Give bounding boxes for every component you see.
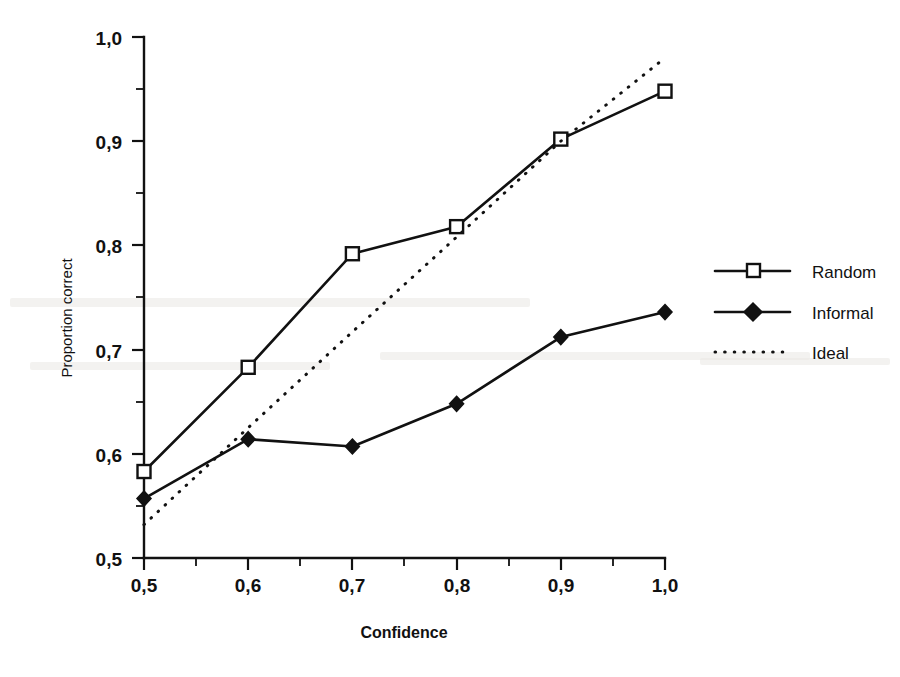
data-point-filled-diamond [658, 305, 672, 320]
legend-item-informal[interactable]: Informal [715, 303, 873, 323]
x-tick-label: 0,9 [548, 575, 574, 596]
series-random [138, 85, 672, 478]
legend: Random Informal Ideal [715, 263, 876, 363]
y-tick-labels: 1,0 0,9 0,8 0,7 0,6 0,5 [96, 28, 123, 570]
series-line-random [144, 91, 665, 471]
chart-svg: 1,0 0,9 0,8 0,7 0,6 0,5 0,5 0,6 0,7 0,8 … [0, 0, 900, 677]
x-tick-labels: 0,5 0,6 0,7 0,8 0,9 1,0 [131, 575, 678, 596]
y-tick-label: 1,0 [96, 28, 122, 49]
data-point-filled-diamond [137, 491, 151, 506]
y-tick-label: 0,7 [96, 341, 122, 362]
x-tick-label: 0,7 [339, 575, 365, 596]
data-point-filled-diamond [345, 439, 359, 454]
legend-item-ideal[interactable]: Ideal [715, 344, 849, 363]
x-tick-label: 0,5 [131, 575, 158, 596]
data-point-open-square [659, 85, 672, 98]
data-point-filled-diamond [450, 396, 464, 411]
figure-container: 1,0 0,9 0,8 0,7 0,6 0,5 0,5 0,6 0,7 0,8 … [0, 0, 900, 677]
x-tick-label: 0,6 [235, 575, 261, 596]
legend-marker-filled-diamond [744, 303, 762, 321]
y-axis-ticks [132, 37, 144, 558]
x-tick-label: 1,0 [652, 575, 678, 596]
y-tick-label: 0,6 [96, 445, 122, 466]
data-point-filled-diamond [554, 330, 568, 345]
y-axis-title: Proportion correct [58, 258, 75, 378]
legend-label-informal: Informal [812, 304, 873, 323]
legend-label-random: Random [812, 263, 876, 282]
y-tick-label: 0,8 [96, 236, 122, 257]
y-tick-label: 0,5 [96, 549, 123, 570]
data-point-open-square [138, 465, 151, 478]
data-point-open-square [346, 247, 359, 260]
legend-item-random[interactable]: Random [715, 263, 876, 282]
series-line-informal [144, 312, 665, 499]
y-tick-label: 0,9 [96, 132, 122, 153]
data-point-open-square [554, 133, 567, 146]
series-informal [137, 305, 672, 507]
legend-label-ideal: Ideal [812, 344, 849, 363]
x-axis-title: Confidence [360, 624, 447, 641]
data-point-open-square [242, 361, 255, 374]
x-tick-label: 0,8 [444, 575, 470, 596]
x-axis-ticks [144, 558, 665, 570]
data-series-group [137, 58, 672, 525]
legend-marker-open-square [747, 264, 760, 277]
